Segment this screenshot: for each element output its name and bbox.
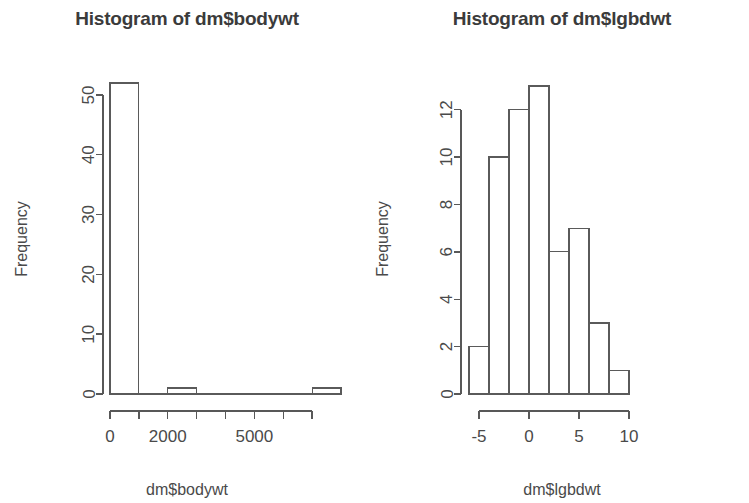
y-tick-label: 0 <box>438 389 457 398</box>
histogram-bar <box>529 86 549 394</box>
x-tick-label: 0 <box>105 427 114 446</box>
x-tick-label: 5000 <box>235 427 273 446</box>
y-tick-label: 0 <box>80 389 99 398</box>
histogram-bar <box>569 228 589 394</box>
plot-area-lgbdwt: 024681012-50510 <box>375 0 749 503</box>
x-axis-label-lgbdwt: dm$lgbdwt <box>375 481 749 499</box>
x-tick-label: 5 <box>574 427 583 446</box>
histogram-bar <box>469 347 489 394</box>
histogram-bar <box>312 388 341 394</box>
histogram-figure: Histogram of dm$bodywt Frequency 0102030… <box>0 0 749 503</box>
histogram-bar <box>168 388 197 394</box>
x-tick-label: 10 <box>620 427 639 446</box>
histogram-bar <box>589 323 609 394</box>
histogram-bar <box>549 252 569 394</box>
x-tick-label: 0 <box>524 427 533 446</box>
histogram-bar <box>609 370 629 394</box>
y-axis: 01020304050 <box>80 86 104 399</box>
histogram-bar <box>110 83 139 394</box>
y-tick-label: 10 <box>438 148 457 167</box>
histogram-bar <box>509 110 529 394</box>
x-axis: 020005000 <box>105 411 312 446</box>
y-tick-label: 6 <box>438 247 457 256</box>
bars-group <box>469 86 629 394</box>
y-tick-label: 30 <box>80 205 99 224</box>
panel-bodywt: Histogram of dm$bodywt Frequency 0102030… <box>0 0 374 503</box>
y-axis: 024681012 <box>438 100 462 399</box>
y-tick-label: 12 <box>438 100 457 119</box>
y-tick-label: 8 <box>438 200 457 209</box>
x-tick-label: -5 <box>471 427 486 446</box>
x-axis-label-bodywt: dm$bodywt <box>0 481 374 499</box>
plot-area-bodywt: 01020304050020005000 <box>0 0 374 503</box>
histogram-bar <box>489 157 509 394</box>
x-tick-label: 2000 <box>149 427 187 446</box>
y-tick-label: 50 <box>80 86 99 105</box>
y-tick-label: 4 <box>438 294 457 303</box>
panel-lgbdwt: Histogram of dm$lgbdwt Frequency 0246810… <box>375 0 749 503</box>
y-tick-label: 20 <box>80 265 99 284</box>
x-axis: -50510 <box>471 411 638 446</box>
y-tick-label: 40 <box>80 145 99 164</box>
y-tick-label: 10 <box>80 325 99 344</box>
bars-group <box>110 83 341 394</box>
y-tick-label: 2 <box>438 342 457 351</box>
